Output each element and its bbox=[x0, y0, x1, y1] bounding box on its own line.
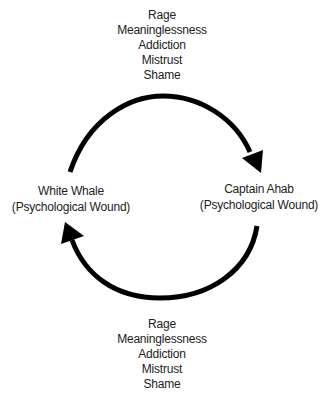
node-white-whale: White Whale (Psychological Wound) bbox=[6, 183, 136, 215]
node-subtitle: (Psychological Wound) bbox=[194, 197, 324, 213]
edge-label: Rage bbox=[0, 317, 324, 332]
top-arc-arrow bbox=[70, 96, 250, 172]
bottom-edge-labels: Rage Meaninglessness Addiction Mistrust … bbox=[0, 317, 324, 392]
bottom-arc-arrow bbox=[72, 226, 257, 298]
edge-label: Mistrust bbox=[0, 362, 324, 377]
node-subtitle: (Psychological Wound) bbox=[6, 199, 136, 215]
node-title: White Whale bbox=[6, 183, 136, 199]
edge-label: Shame bbox=[0, 377, 324, 392]
node-title: Captain Ahab bbox=[194, 181, 324, 197]
arrowhead-right-icon bbox=[242, 150, 263, 173]
node-captain-ahab: Captain Ahab (Psychological Wound) bbox=[194, 181, 324, 213]
edge-label: Addiction bbox=[0, 347, 324, 362]
edge-label: Meaninglessness bbox=[0, 332, 324, 347]
